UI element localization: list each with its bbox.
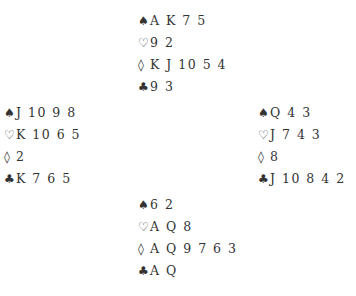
spade-icon: ♠ — [138, 10, 150, 32]
cards: A Q 9 7 6 3 — [150, 241, 237, 256]
cards: 9 3 — [150, 79, 174, 94]
east-clubs: ♣J 10 8 4 2 — [258, 168, 346, 190]
east-hand: ♠Q 4 3 ♡J 7 4 3 ◊8 ♣J 10 8 4 2 — [258, 102, 346, 190]
west-hearts: ♡K 10 6 5 — [4, 124, 81, 146]
cards: 8 — [270, 149, 279, 164]
diamond-icon: ◊ — [138, 54, 150, 76]
diamond-icon: ◊ — [258, 146, 270, 168]
north-diamonds: ◊K J 10 5 4 — [138, 54, 227, 76]
heart-icon: ♡ — [4, 124, 16, 146]
cards: J 10 8 4 2 — [270, 171, 346, 186]
east-spades: ♠Q 4 3 — [258, 102, 346, 124]
spade-icon: ♠ — [138, 194, 150, 216]
cards: A Q 8 — [150, 219, 193, 234]
west-spades: ♠J 10 9 8 — [4, 102, 81, 124]
east-diamonds: ◊8 — [258, 146, 346, 168]
west-hand: ♠J 10 9 8 ♡K 10 6 5 ◊2 ♣K 7 6 5 — [4, 102, 81, 190]
club-icon: ♣ — [4, 168, 16, 190]
north-clubs: ♣9 3 — [138, 76, 227, 98]
heart-icon: ♡ — [138, 216, 150, 238]
south-hand: ♠6 2 ♡A Q 8 ◊A Q 9 7 6 3 ♣A Q — [138, 194, 237, 282]
cards: A K 7 5 — [150, 13, 207, 28]
south-clubs: ♣A Q — [138, 260, 237, 282]
club-icon: ♣ — [258, 168, 270, 190]
cards: K J 10 5 4 — [150, 57, 227, 72]
diamond-icon: ◊ — [4, 146, 16, 168]
cards: K 7 6 5 — [16, 171, 72, 186]
east-hearts: ♡J 7 4 3 — [258, 124, 346, 146]
west-diamonds: ◊2 — [4, 146, 81, 168]
cards: 9 2 — [150, 35, 174, 50]
cards: A Q — [150, 263, 178, 278]
north-hand: ♠A K 7 5 ♡9 2 ◊K J 10 5 4 ♣9 3 — [138, 10, 227, 98]
cards: 6 2 — [150, 197, 174, 212]
west-clubs: ♣K 7 6 5 — [4, 168, 81, 190]
club-icon: ♣ — [138, 260, 150, 282]
spade-icon: ♠ — [4, 102, 16, 124]
heart-icon: ♡ — [258, 124, 270, 146]
cards: J 10 9 8 — [16, 105, 77, 120]
south-hearts: ♡A Q 8 — [138, 216, 237, 238]
heart-icon: ♡ — [138, 32, 150, 54]
cards: 2 — [16, 149, 25, 164]
club-icon: ♣ — [138, 76, 150, 98]
diamond-icon: ◊ — [138, 238, 150, 260]
north-hearts: ♡9 2 — [138, 32, 227, 54]
cards: K 10 6 5 — [16, 127, 81, 142]
cards: J 7 4 3 — [270, 127, 321, 142]
north-spades: ♠A K 7 5 — [138, 10, 227, 32]
spade-icon: ♠ — [258, 102, 270, 124]
cards: Q 4 3 — [270, 105, 312, 120]
south-diamonds: ◊A Q 9 7 6 3 — [138, 238, 237, 260]
south-spades: ♠6 2 — [138, 194, 237, 216]
